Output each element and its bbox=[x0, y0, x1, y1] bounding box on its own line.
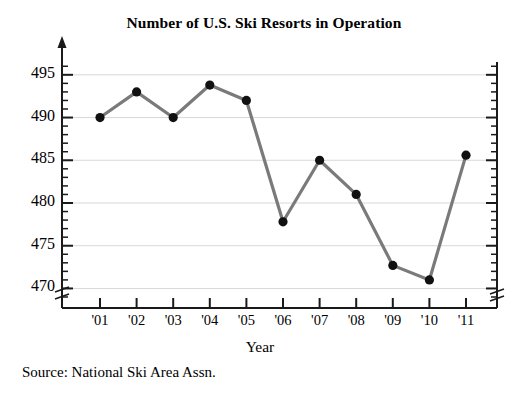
y-axis-tick-label: 490 bbox=[0, 107, 55, 125]
data-point bbox=[278, 217, 287, 226]
data-point bbox=[315, 156, 324, 165]
y-axis-tick-label: 470 bbox=[0, 277, 55, 295]
chart-figure: Number of U.S. Ski Resorts in Operation … bbox=[0, 0, 528, 395]
data-markers-group bbox=[95, 80, 470, 284]
gridlines-group bbox=[62, 75, 497, 289]
x-axis-ticks bbox=[100, 298, 466, 308]
data-point bbox=[205, 80, 214, 89]
source-note: Source: National Ski Area Assn. bbox=[22, 364, 216, 381]
data-point bbox=[169, 113, 178, 122]
data-point bbox=[425, 275, 434, 284]
y-axis-tick-label: 485 bbox=[0, 149, 55, 167]
data-point bbox=[132, 87, 141, 96]
data-line bbox=[100, 85, 466, 280]
y-axis-tick-label: 480 bbox=[0, 192, 55, 210]
y-axis-right-ticks bbox=[486, 66, 497, 297]
x-axis-tick-label: '11 bbox=[441, 312, 491, 329]
data-point bbox=[95, 113, 104, 122]
x-axis-title: Year bbox=[180, 338, 340, 356]
data-point bbox=[461, 151, 470, 160]
data-point bbox=[242, 96, 251, 105]
data-point bbox=[388, 261, 397, 270]
data-point bbox=[352, 190, 361, 199]
y-axis-tick-label: 495 bbox=[0, 64, 55, 82]
chart-canvas bbox=[0, 0, 528, 395]
y-axis-ticks bbox=[62, 66, 73, 297]
y-axis-tick-label: 475 bbox=[0, 235, 55, 253]
y-axis-arrow bbox=[58, 36, 67, 48]
